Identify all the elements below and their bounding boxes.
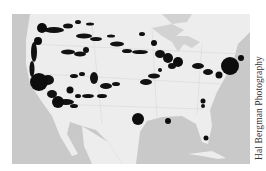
us-map: [12, 14, 250, 164]
marker-philadelphia: [216, 72, 223, 79]
marker-boston: [238, 55, 244, 61]
marker-miami: [204, 136, 209, 141]
marker-los-angeles: [52, 96, 64, 108]
marker-seattle: [37, 23, 47, 33]
marker-new-york: [221, 57, 239, 75]
photo-credit: Hal Bergman Photography: [254, 56, 264, 160]
marker-new-orleans: [165, 118, 171, 124]
marker-las-vegas: [67, 87, 74, 94]
map-canvas: [12, 14, 250, 164]
marker-houston: [132, 113, 144, 125]
marker-san-francisco-bay: [30, 73, 48, 91]
cuba: [188, 151, 226, 159]
marker-portland: [34, 37, 42, 45]
marker-chicago: [173, 57, 183, 67]
us-landmass: [26, 14, 250, 164]
marker-milwaukee: [151, 40, 157, 46]
marker-atlanta: [201, 99, 206, 104]
